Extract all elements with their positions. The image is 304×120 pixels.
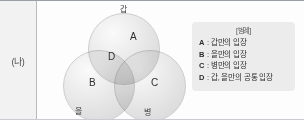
legend-item-text: 갑, 을만의 공통 입장 <box>211 72 273 84</box>
diagram-figure: (나) A B C D 갑 을 병 [범례] A : 갑만의 입장 <box>0 0 304 120</box>
venn-diagram: A B C D 갑 을 병 <box>59 5 189 119</box>
legend-list: A : 갑만의 입장 B : 을만의 입장 C : 병만의 입장 D : <box>192 37 295 83</box>
legend-item-text: 갑만의 입장 <box>211 37 247 49</box>
venn-region-c-label: C <box>151 77 158 88</box>
legend-item-key: D <box>199 72 206 84</box>
legend-title: [범례] <box>192 25 295 35</box>
venn-set-label-bottom-left: 을 <box>75 105 82 116</box>
legend-item-text: 병만의 입장 <box>211 60 247 72</box>
legend-item-key: A <box>199 37 206 49</box>
row-label-cell: (나) <box>0 1 37 120</box>
legend-item-key: C <box>199 60 206 72</box>
venn-region-a-label: A <box>130 31 137 42</box>
figure-content: A B C D 갑 을 병 [범례] A : 갑만의 입장 B : 을만의 입장 <box>37 1 304 120</box>
legend-item-text: 을만의 입장 <box>211 49 247 61</box>
legend-item-key: B <box>199 49 206 61</box>
legend-box: [범례] A : 갑만의 입장 B : 을만의 입장 C : 병만의 입장 <box>192 22 295 91</box>
legend-item: D : 갑, 을만의 공통 입장 <box>199 72 295 84</box>
venn-region-b-label: B <box>89 77 96 88</box>
venn-set-label-top: 갑 <box>120 3 127 14</box>
venn-set-label-bottom-right: 병 <box>144 106 151 117</box>
legend-item: B : 을만의 입장 <box>199 49 295 61</box>
legend-item: A : 갑만의 입장 <box>199 37 295 49</box>
row-label-text: (나) <box>11 55 24 68</box>
legend-item: C : 병만의 입장 <box>199 60 295 72</box>
venn-region-d-label: D <box>108 51 115 62</box>
